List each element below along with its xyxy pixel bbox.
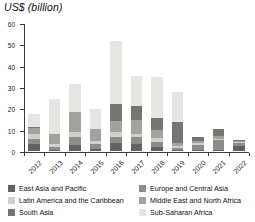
bar-stack: [110, 41, 122, 151]
legend-item[interactable]: Latin America and the Caribbean: [8, 194, 124, 206]
bar-segment: [90, 129, 102, 141]
bar-segment: [213, 140, 225, 150]
legend-item[interactable]: Europe and Central Asia: [139, 182, 241, 194]
x-axis-tick: [208, 153, 209, 156]
bar-segment: [49, 99, 61, 133]
x-axis-tick: [126, 153, 127, 156]
bar-segment: [151, 147, 163, 151]
legend-label: Europe and Central Asia: [150, 184, 228, 193]
y-axis-line: [24, 24, 25, 153]
bar-segment: [49, 134, 61, 144]
bar-segment: [131, 76, 143, 106]
chart-container: US$ (billion) 01020304050602012201320142…: [0, 0, 255, 222]
x-axis-tick: [44, 153, 45, 156]
legend-swatch: [139, 209, 146, 216]
bar-stack: [192, 137, 204, 151]
bar-segment: [151, 118, 163, 130]
legend-swatch: [139, 197, 146, 204]
bar-stack: [28, 114, 40, 151]
x-axis-tick: [167, 153, 168, 156]
bar-stack: [233, 140, 245, 151]
bar-segment: [131, 137, 143, 144]
y-axis-tick-label: 0: [11, 149, 15, 156]
x-axis-tick-label: 2022: [227, 159, 248, 180]
bar-segment: [69, 112, 81, 132]
bar-stack: [69, 84, 81, 151]
x-axis-line: [24, 152, 249, 153]
y-axis-tick-label: 20: [8, 106, 15, 113]
bar-segment: [69, 145, 81, 151]
bar-stack: [131, 76, 143, 151]
y-axis-tick-label: 50: [8, 42, 15, 49]
legend-column-left: East Asia and PacificLatin America and t…: [8, 182, 124, 218]
x-axis-tick-label: 2017: [125, 159, 146, 180]
x-axis-tick: [24, 153, 25, 156]
bar-segment: [172, 150, 184, 151]
bar-stack: [49, 99, 61, 151]
legend-column-right: Europe and Central AsiaMiddle East and N…: [139, 182, 241, 218]
bar-segment: [172, 122, 184, 143]
bar-segment: [90, 109, 102, 129]
x-axis-tick-label: 2015: [84, 159, 105, 180]
y-axis-tick: [20, 67, 24, 68]
y-axis-tick: [20, 88, 24, 89]
x-axis-tick: [229, 153, 230, 156]
y-axis-tick: [20, 109, 24, 110]
bar-segment: [110, 121, 122, 133]
y-axis-tick-label: 30: [8, 85, 15, 92]
x-axis-tick-label: 2014: [64, 159, 85, 180]
bar-segment: [192, 150, 204, 151]
x-axis-tick: [106, 153, 107, 156]
legend-swatch: [8, 197, 15, 204]
bar-segment: [28, 128, 40, 135]
x-axis-tick-label: 2012: [23, 159, 44, 180]
bar-stack: [213, 129, 225, 151]
legend-item[interactable]: Sub-Saharan Africa: [139, 206, 241, 218]
y-axis-tick-label: 40: [8, 63, 15, 70]
bar-segment: [151, 130, 163, 138]
x-axis-tick-label: 2019: [166, 159, 187, 180]
bar-segment: [213, 150, 225, 151]
bar-segment: [233, 146, 245, 151]
x-axis-tick-label: 2016: [104, 159, 125, 180]
x-axis-tick-label: 2020: [186, 159, 207, 180]
legend-swatch: [8, 209, 15, 216]
bar-segment: [172, 92, 184, 122]
legend-label: South Asia: [19, 208, 53, 217]
bar-stack: [151, 77, 163, 151]
x-axis-tick-label: 2021: [207, 159, 228, 180]
bar-segment: [131, 120, 143, 134]
legend-item[interactable]: Middle East and North Africa: [139, 194, 241, 206]
legend-label: Sub-Saharan Africa: [150, 208, 212, 217]
legend-label: Latin America and the Caribbean: [19, 196, 124, 205]
legend-label: Middle East and North Africa: [150, 196, 241, 205]
x-axis-tick: [65, 153, 66, 156]
plot-area: 0102030405060201220132014201520162017201…: [24, 24, 249, 152]
bar-segment: [90, 149, 102, 151]
y-axis-tick-label: 60: [8, 21, 15, 28]
x-axis-tick: [188, 153, 189, 156]
bar-segment: [110, 143, 122, 151]
y-axis-tick: [20, 131, 24, 132]
bar-segment: [110, 41, 122, 104]
bar-segment: [69, 84, 81, 112]
bar-segment: [131, 106, 143, 120]
y-axis-tick: [20, 24, 24, 25]
legend-label: East Asia and Pacific: [19, 184, 86, 193]
bar-segment: [110, 104, 122, 121]
bar-stack: [90, 109, 102, 151]
legend-swatch: [8, 185, 15, 192]
x-axis-tick-label: 2018: [145, 159, 166, 180]
bar-segment: [69, 137, 81, 146]
bar-segment: [28, 144, 40, 151]
legend-item[interactable]: East Asia and Pacific: [8, 182, 124, 194]
bar-stack: [172, 92, 184, 151]
bar-segment: [213, 129, 225, 136]
bar-segment: [28, 114, 40, 126]
legend-swatch: [139, 185, 146, 192]
x-axis-tick: [147, 153, 148, 156]
x-axis-tick: [249, 153, 250, 156]
legend-item[interactable]: South Asia: [8, 206, 124, 218]
y-axis-tick: [20, 45, 24, 46]
x-axis-tick: [85, 153, 86, 156]
